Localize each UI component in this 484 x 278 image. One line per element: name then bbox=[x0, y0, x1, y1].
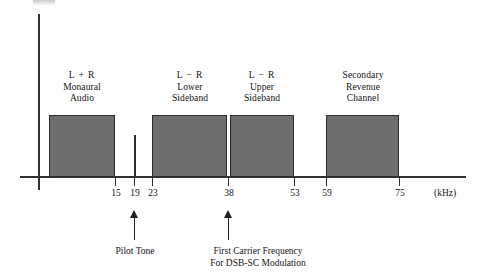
y-axis-line bbox=[38, 14, 40, 190]
band-label-line1: L − R bbox=[150, 70, 230, 82]
carrier-frequency-arrow-icon bbox=[223, 210, 234, 240]
carrier-caption-line1: First Carrier Frequency bbox=[174, 245, 342, 257]
band-label-line3: Channel bbox=[322, 93, 404, 105]
band-label-line1: Secondary bbox=[322, 70, 404, 82]
pilot-tone-caption: Pilot Tone bbox=[102, 245, 168, 257]
pilot-tone-impulse bbox=[134, 135, 136, 177]
carrier-frequency-caption: First Carrier Frequency For DSB-SC Modul… bbox=[174, 245, 342, 269]
x-tick-53 bbox=[294, 178, 295, 186]
band-label-line2: Monaural bbox=[42, 82, 122, 94]
band-bar-upper-sideband bbox=[230, 115, 294, 177]
band-bar-lower-sideband bbox=[152, 115, 227, 177]
carrier-caption-line2: For DSB-SC Modulation bbox=[174, 257, 342, 269]
band-label-lower-sideband: L − R Lower Sideband bbox=[150, 70, 230, 105]
x-tick-label-75: 75 bbox=[387, 188, 413, 199]
band-bar-monaural-audio bbox=[49, 115, 115, 177]
x-axis-unit-label: (kHz) bbox=[434, 188, 456, 199]
x-tick-59 bbox=[326, 178, 327, 186]
x-tick-label-38: 38 bbox=[216, 188, 242, 199]
band-label-line3: Audio bbox=[42, 93, 122, 105]
page-edge-artifact bbox=[33, 0, 55, 6]
x-tick-label-53: 53 bbox=[282, 188, 308, 199]
x-tick-19 bbox=[134, 178, 135, 186]
fm-baseband-spectrum-figure: L + R Monaural Audio L − R Lower Sideban… bbox=[0, 0, 484, 278]
band-label-line3: Sideband bbox=[150, 93, 230, 105]
band-label-line2: Revenue bbox=[322, 82, 404, 94]
x-tick-label-59: 59 bbox=[314, 188, 340, 199]
band-label-secondary-revenue-channel: Secondary Revenue Channel bbox=[322, 70, 404, 105]
band-label-line3: Sideband bbox=[222, 93, 302, 105]
band-label-line1: L + R bbox=[42, 70, 122, 82]
pilot-tone-arrow-icon bbox=[129, 210, 140, 240]
band-label-line2: Lower bbox=[150, 82, 230, 94]
x-tick-75 bbox=[399, 178, 400, 186]
x-tick-label-23: 23 bbox=[140, 188, 166, 199]
x-tick-38 bbox=[228, 178, 229, 186]
band-label-line2: Upper bbox=[222, 82, 302, 94]
band-bar-secondary-revenue-channel bbox=[326, 115, 399, 177]
x-tick-15 bbox=[115, 178, 116, 186]
band-label-monaural-audio: L + R Monaural Audio bbox=[42, 70, 122, 105]
band-label-upper-sideband: L − R Upper Sideband bbox=[222, 70, 302, 105]
x-tick-23 bbox=[152, 178, 153, 186]
band-label-line1: L − R bbox=[222, 70, 302, 82]
